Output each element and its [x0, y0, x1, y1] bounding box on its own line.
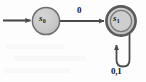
- state-label-s1-base: s: [113, 13, 117, 23]
- transition-label-s0-s1: 0: [77, 6, 82, 15]
- state-label-s0-base: s: [39, 13, 43, 23]
- state-label-s0-subscript: 0: [43, 18, 46, 24]
- state-label-s1-subscript: 1: [117, 18, 120, 24]
- self-loop-arrow-s1: [117, 33, 130, 67]
- automaton-figure: s0 s1 0 0,1: [0, 0, 146, 82]
- automaton-diagram: [0, 0, 146, 82]
- state-label-s1: s1: [113, 14, 120, 24]
- state-circle-s0: [32, 7, 59, 34]
- self-loop-label-s1: 0,1: [111, 67, 122, 76]
- state-label-s0: s0: [39, 14, 46, 24]
